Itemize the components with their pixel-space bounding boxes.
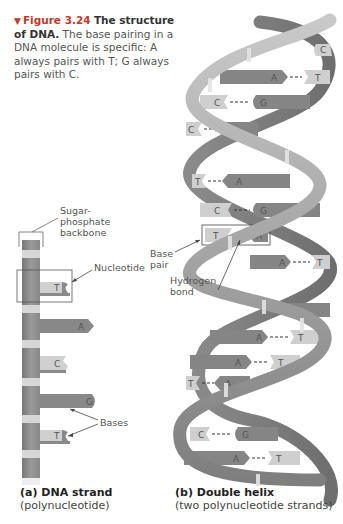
svg-text:C: C xyxy=(188,125,194,135)
label-nucleotide: Nucleotide xyxy=(94,262,145,273)
svg-text:T: T xyxy=(194,177,201,187)
panel-a-caption: (a) DNA strand (polynucleotide) xyxy=(20,486,112,512)
svg-text:G: G xyxy=(86,397,93,407)
base-A: A xyxy=(40,319,94,333)
label-base-pair: Base pair xyxy=(150,248,180,270)
panel-b-caption: (b) Double helix (two polynucleotide str… xyxy=(175,486,333,512)
svg-text:A: A xyxy=(78,322,85,332)
svg-text:C: C xyxy=(320,45,326,55)
label-sugar-phosphate-backbone: Sugar-phosphate backbone xyxy=(60,205,140,238)
svg-text:C: C xyxy=(198,430,204,440)
panel-b-subtitle: (two polynucleotide strands) xyxy=(175,499,333,512)
svg-text:T: T xyxy=(316,258,323,268)
svg-text:T: T xyxy=(314,73,321,83)
svg-text:C: C xyxy=(214,98,220,108)
svg-text:A: A xyxy=(256,333,263,343)
svg-text:T: T xyxy=(212,231,219,241)
panel-a-title: (a) DNA strand xyxy=(20,486,112,499)
base-G: G xyxy=(40,394,95,408)
svg-text:G: G xyxy=(260,98,267,108)
svg-text:G: G xyxy=(260,206,267,216)
sugar-phosphate-backbone xyxy=(22,240,40,485)
svg-text:A: A xyxy=(271,73,278,83)
label-bases: Bases xyxy=(100,417,128,428)
svg-text:A: A xyxy=(236,177,243,187)
svg-text:C: C xyxy=(54,359,60,369)
panel-b-title: (b) Double helix xyxy=(175,486,274,499)
panel-a-subtitle: (polynucleotide) xyxy=(20,499,110,512)
label-hydrogen-bond: Hydrogen bond xyxy=(170,275,218,297)
svg-text:A: A xyxy=(279,258,286,268)
svg-text:T: T xyxy=(187,379,194,389)
svg-text:C: C xyxy=(214,206,220,216)
base-T-2: T xyxy=(40,430,70,444)
svg-text:T: T xyxy=(53,431,60,441)
svg-text:A: A xyxy=(233,454,240,464)
svg-text:G: G xyxy=(242,430,249,440)
base-C: C xyxy=(40,356,68,373)
dna-strand-panel: T A C G T xyxy=(17,218,98,485)
svg-text:T: T xyxy=(297,333,304,343)
svg-text:T: T xyxy=(275,454,282,464)
base-T-1: T xyxy=(40,282,70,296)
double-helix-panel: C A T C G C G T xyxy=(175,20,332,500)
svg-text:A: A xyxy=(235,358,242,368)
svg-text:T: T xyxy=(53,283,60,293)
